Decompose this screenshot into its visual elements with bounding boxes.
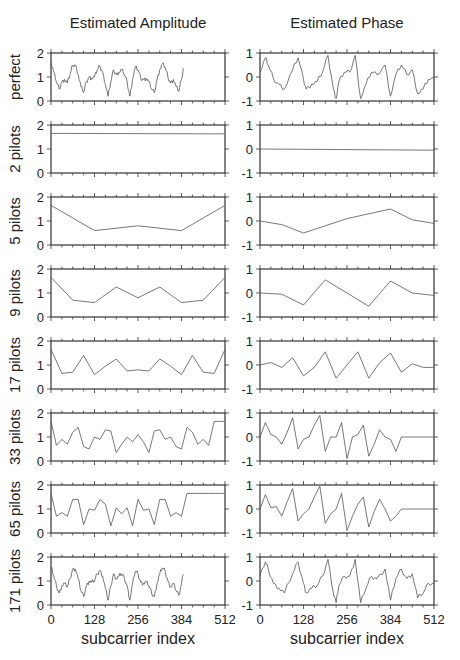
plot-frame xyxy=(51,269,225,317)
row-label: perfect xyxy=(6,53,23,100)
y-tick-label: 0 xyxy=(37,598,44,613)
y-tick-label: 2 xyxy=(37,190,44,205)
y-tick-label: 2 xyxy=(37,118,44,133)
y-tick-label: 0 xyxy=(37,94,44,109)
phase-curve xyxy=(260,55,434,98)
panel-phase-7: -1010128256384512 xyxy=(241,550,444,628)
y-tick-label: 2 xyxy=(37,406,44,421)
x-tick-label: 128 xyxy=(84,612,106,627)
y-tick-label: 0 xyxy=(246,430,253,445)
y-tick-label: 0 xyxy=(37,238,44,253)
y-tick-label: 0 xyxy=(246,214,253,229)
phase-curve xyxy=(260,149,434,150)
phase-curve xyxy=(260,559,434,602)
plot-frame xyxy=(51,53,225,101)
y-tick-label: 1 xyxy=(37,358,44,373)
plot-frame xyxy=(51,413,225,461)
y-tick-label: 0 xyxy=(37,526,44,541)
panel-amplitude-1: 012 xyxy=(37,118,229,181)
panel-amplitude-6: 012 xyxy=(37,478,229,541)
row-label: 17 pilots xyxy=(6,337,23,393)
y-tick-label: 1 xyxy=(246,478,253,493)
left-x-axis-label: subcarrier index xyxy=(38,630,238,648)
y-tick-label: 1 xyxy=(37,502,44,517)
y-tick-label: 1 xyxy=(246,406,253,421)
y-tick-label: 2 xyxy=(37,550,44,565)
y-tick-label: 0 xyxy=(37,166,44,181)
amplitude-curve xyxy=(51,493,225,525)
y-tick-label: 0 xyxy=(37,310,44,325)
y-tick-label: 0 xyxy=(246,574,253,589)
y-tick-label: 0 xyxy=(246,502,253,517)
panel-phase-5: -101 xyxy=(241,406,438,469)
y-tick-label: 1 xyxy=(37,286,44,301)
panel-amplitude-3: 012 xyxy=(37,262,229,325)
y-tick-label: 0 xyxy=(37,454,44,469)
y-tick-label: 0 xyxy=(246,142,253,157)
plot-frame xyxy=(260,557,434,605)
y-tick-label: 1 xyxy=(246,118,253,133)
x-tick-label: 512 xyxy=(423,612,445,627)
y-tick-label: -1 xyxy=(241,382,253,397)
row-label: 5 pilots xyxy=(6,197,23,245)
right-x-axis-label: subcarrier index xyxy=(247,630,447,648)
row-label: 9 pilots xyxy=(6,269,23,317)
y-tick-label: 0 xyxy=(246,70,253,85)
panel-amplitude-4: 012 xyxy=(37,334,229,397)
y-tick-label: 1 xyxy=(37,142,44,157)
plot-frame xyxy=(260,197,434,245)
x-tick-label: 128 xyxy=(293,612,315,627)
figure-canvas: perfect012-1012 pilots012-1015 pilots012… xyxy=(0,0,460,660)
x-tick-label: 0 xyxy=(256,612,263,627)
y-tick-label: 1 xyxy=(246,262,253,277)
panel-phase-2: -101 xyxy=(241,190,438,253)
plot-frame xyxy=(51,557,225,605)
amplitude-curve xyxy=(51,567,183,601)
panel-amplitude-7: 0120128256384512 xyxy=(37,550,236,628)
amplitude-curve xyxy=(51,63,183,97)
y-tick-label: 1 xyxy=(37,70,44,85)
y-tick-label: -1 xyxy=(241,454,253,469)
y-tick-label: 1 xyxy=(37,430,44,445)
panel-phase-4: -101 xyxy=(241,334,438,397)
x-tick-label: 256 xyxy=(127,612,149,627)
row-label: 33 pilots xyxy=(6,409,23,465)
panel-phase-1: -101 xyxy=(241,118,438,181)
y-tick-label: 1 xyxy=(246,46,253,61)
amplitude-curve xyxy=(51,277,225,302)
phase-curve xyxy=(260,209,434,233)
y-tick-label: 0 xyxy=(246,358,253,373)
y-tick-label: 2 xyxy=(37,334,44,349)
x-tick-label: 512 xyxy=(214,612,236,627)
row-label: 2 pilots xyxy=(6,125,23,173)
y-tick-label: 1 xyxy=(246,190,253,205)
phase-curve xyxy=(260,415,434,458)
y-tick-label: 1 xyxy=(246,550,253,565)
plot-frame xyxy=(51,197,225,245)
panel-phase-0: -101 xyxy=(241,46,438,109)
x-tick-label: 256 xyxy=(336,612,358,627)
y-tick-label: 2 xyxy=(37,46,44,61)
panel-phase-6: -101 xyxy=(241,478,438,541)
y-tick-label: 2 xyxy=(37,262,44,277)
y-tick-label: -1 xyxy=(241,526,253,541)
x-tick-label: 0 xyxy=(47,612,54,627)
phase-curve xyxy=(260,486,434,530)
phase-curve xyxy=(260,352,434,378)
y-tick-label: 1 xyxy=(37,574,44,589)
plot-frame xyxy=(51,125,225,173)
y-tick-label: 0 xyxy=(246,286,253,301)
panel-amplitude-2: 012 xyxy=(37,190,229,253)
y-tick-label: -1 xyxy=(241,238,253,253)
y-tick-label: 0 xyxy=(37,382,44,397)
plot-frame xyxy=(51,485,225,533)
x-tick-label: 384 xyxy=(171,612,193,627)
y-tick-label: 1 xyxy=(246,334,253,349)
row-label: 65 pilots xyxy=(6,481,23,537)
row-label: 171 pilots xyxy=(6,549,23,613)
y-tick-label: 2 xyxy=(37,478,44,493)
y-tick-label: 1 xyxy=(37,214,44,229)
y-tick-label: -1 xyxy=(241,310,253,325)
amplitude-curve xyxy=(51,205,225,230)
panel-amplitude-5: 012 xyxy=(37,406,229,469)
